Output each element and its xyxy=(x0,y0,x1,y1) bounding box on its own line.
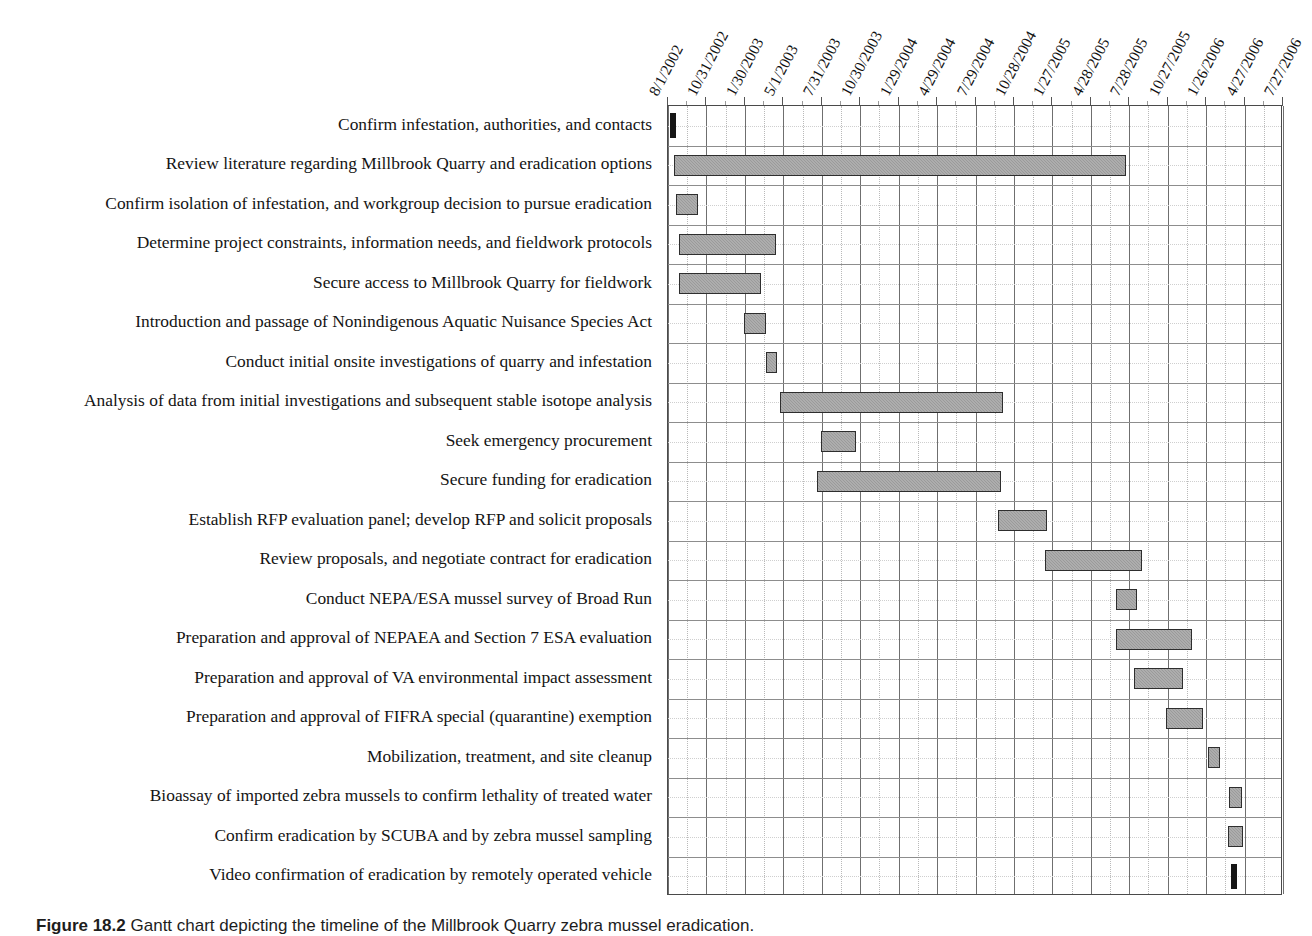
gantt-bar[interactable] xyxy=(1116,589,1138,610)
task-label: Confirm infestation, authorities, and co… xyxy=(338,116,652,133)
horizontal-gridline xyxy=(668,699,1281,700)
horizontal-gridline xyxy=(668,383,1281,384)
gantt-bar[interactable] xyxy=(1045,550,1142,571)
task-label: Seek emergency procurement xyxy=(446,432,652,449)
horizontal-gridline-minor xyxy=(668,442,1281,443)
gantt-milestone[interactable] xyxy=(670,113,676,138)
gantt-bar[interactable] xyxy=(1116,629,1192,650)
task-label: Determine project constraints, informati… xyxy=(137,234,652,251)
task-label: Introduction and passage of Nonindigenou… xyxy=(135,313,652,330)
task-label: Analysis of data from initial investigat… xyxy=(84,392,652,409)
horizontal-gridline xyxy=(668,185,1281,186)
task-label: Conduct NEPA/ESA mussel survey of Broad … xyxy=(306,590,652,607)
x-axis-tick-label: 5/1/2003 xyxy=(760,42,802,99)
horizontal-gridline xyxy=(668,857,1281,858)
horizontal-gridline-minor xyxy=(668,363,1281,364)
vertical-gridline xyxy=(1283,106,1284,894)
figure-caption-text: Gantt chart depicting the timeline of th… xyxy=(131,916,755,935)
gantt-bar[interactable] xyxy=(817,471,1001,492)
task-label: Conduct initial onsite investigations of… xyxy=(226,353,652,370)
gantt-bar[interactable] xyxy=(1229,787,1241,808)
gantt-bar[interactable] xyxy=(676,194,698,215)
horizontal-gridline xyxy=(668,580,1281,581)
horizontal-gridline xyxy=(668,225,1281,226)
horizontal-gridline-minor xyxy=(668,205,1281,206)
task-label: Mobilization, treatment, and site cleanu… xyxy=(367,748,652,765)
task-label: Preparation and approval of FIFRA specia… xyxy=(186,708,652,725)
task-label: Review proposals, and negotiate contract… xyxy=(259,550,652,567)
figure-caption: Figure 18.2 Gantt chart depicting the ti… xyxy=(36,916,1286,936)
horizontal-gridline xyxy=(668,146,1281,147)
horizontal-gridline xyxy=(668,462,1281,463)
gantt-bar[interactable] xyxy=(1228,826,1243,847)
horizontal-gridline xyxy=(668,264,1281,265)
task-label: Confirm isolation of infestation, and wo… xyxy=(105,195,652,212)
horizontal-gridline-minor xyxy=(668,521,1281,522)
horizontal-gridline xyxy=(668,343,1281,344)
task-label: Bioassay of imported zebra mussels to co… xyxy=(150,787,652,804)
gantt-plot-area xyxy=(667,105,1282,895)
task-label: Preparation and approval of NEPAEA and S… xyxy=(176,629,652,646)
gantt-bar[interactable] xyxy=(1208,747,1220,768)
horizontal-gridline-minor xyxy=(668,560,1281,561)
task-label: Secure access to Millbrook Quarry for fi… xyxy=(313,274,652,291)
horizontal-gridline xyxy=(668,620,1281,621)
task-label: Confirm eradication by SCUBA and by zebr… xyxy=(214,827,652,844)
x-axis-tick-label: 8/1/2002 xyxy=(645,42,687,99)
task-label: Secure funding for eradication xyxy=(440,471,652,488)
horizontal-gridline xyxy=(668,817,1281,818)
horizontal-gridline xyxy=(668,422,1281,423)
x-axis-date-labels: 8/1/200210/31/20021/30/20035/1/20037/31/… xyxy=(0,0,1312,105)
gantt-bar[interactable] xyxy=(674,155,1126,176)
horizontal-gridline-minor xyxy=(668,600,1281,601)
task-label-column: Confirm infestation, authorities, and co… xyxy=(0,105,660,895)
gantt-bar[interactable] xyxy=(1134,668,1184,689)
gantt-milestone[interactable] xyxy=(1231,864,1237,889)
horizontal-gridline xyxy=(668,304,1281,305)
gantt-bar[interactable] xyxy=(679,273,761,294)
horizontal-gridline-minor xyxy=(668,837,1281,838)
tick-mark xyxy=(1282,97,1283,106)
task-label: Preparation and approval of VA environme… xyxy=(194,669,652,686)
horizontal-gridline xyxy=(668,778,1281,779)
task-label: Establish RFP evaluation panel; develop … xyxy=(189,511,652,528)
horizontal-gridline-minor xyxy=(668,126,1281,127)
figure-number: Figure 18.2 xyxy=(36,916,126,935)
horizontal-gridline-minor xyxy=(668,679,1281,680)
horizontal-gridline xyxy=(668,738,1281,739)
horizontal-gridline xyxy=(668,501,1281,502)
task-label: Video confirmation of eradication by rem… xyxy=(209,866,652,883)
gantt-bar[interactable] xyxy=(780,392,1003,413)
horizontal-gridline xyxy=(668,541,1281,542)
horizontal-gridline-minor xyxy=(668,797,1281,798)
task-label: Review literature regarding Millbrook Qu… xyxy=(166,155,652,172)
gantt-bar[interactable] xyxy=(821,431,856,452)
horizontal-gridline-minor xyxy=(668,758,1281,759)
horizontal-gridline-minor xyxy=(668,876,1281,877)
gantt-bar[interactable] xyxy=(744,313,767,334)
gantt-bar[interactable] xyxy=(998,510,1047,531)
horizontal-gridline xyxy=(668,659,1281,660)
gantt-bar[interactable] xyxy=(766,352,777,373)
gantt-bar[interactable] xyxy=(679,234,776,255)
gantt-bar[interactable] xyxy=(1166,708,1203,729)
